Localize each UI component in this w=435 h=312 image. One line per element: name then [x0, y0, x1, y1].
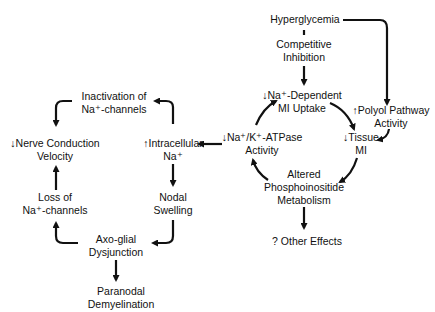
edge-inactivation-nerve [56, 101, 72, 125]
node-loss-na-channels: Loss of Na⁺-channels [23, 191, 88, 217]
node-competitive-inhibition: Competitive Inhibition [276, 38, 331, 64]
edge-intracellular-inactivation [155, 101, 173, 124]
node-other-effects: ? Other Effects [272, 235, 342, 248]
node-phosphoinositide: Altered Phosphoinositide Metabolism [264, 168, 344, 207]
edge-nodal-axoglial [153, 220, 173, 243]
node-inactivation-na-channels: Inactivation of Na⁺-channels [82, 90, 147, 116]
node-nodal-swelling: Nodal Swelling [153, 191, 192, 217]
node-na-dependent-mi-uptake: ↓Na⁺-Dependent MI Uptake [262, 89, 342, 115]
edge-axoglial-loss [56, 223, 78, 243]
node-hyperglycemia: Hyperglycemia [270, 13, 339, 26]
node-na-k-atpase: ↓Na⁺/K⁺-ATPase Activity [222, 131, 303, 157]
node-intracellular-na: ↑Intracellular Na⁺ [143, 137, 203, 163]
node-paranodal-demyelination: Paranodal Demyelination [88, 285, 155, 311]
node-nerve-conduction: ↓Nerve Conduction Velocity [10, 137, 99, 163]
edge-hyper-polyol [343, 20, 387, 104]
node-polyol-pathway: ↑Polyol Pathway Activity [352, 104, 429, 130]
edge-polyol-tissue [378, 129, 389, 140]
node-axo-glial-dysjunction: Axo-glial Dysjunction [89, 233, 143, 259]
node-tissue-mi: ↓Tissue MI [343, 131, 379, 157]
